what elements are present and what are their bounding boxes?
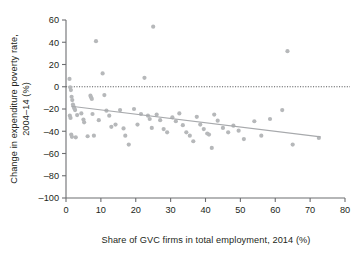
scatter-point <box>191 139 195 143</box>
scatter-point <box>237 129 241 133</box>
y-tick-label: 60 <box>49 15 59 25</box>
scatter-point <box>97 118 101 122</box>
y-tick-label: –40 <box>44 127 59 137</box>
scatter-point <box>123 134 127 138</box>
x-tick-label: 20 <box>131 205 141 215</box>
y-axis-title-line2: 2004–14 (%) <box>21 82 31 136</box>
scatter-point <box>188 134 192 138</box>
scatter-point <box>184 130 188 134</box>
scatter-point <box>68 116 72 120</box>
y-tick-label: –20 <box>44 104 59 114</box>
scatter-point <box>162 127 166 131</box>
scatter-point <box>198 122 202 126</box>
scatter-point <box>86 134 90 138</box>
x-tick-label: 0 <box>63 205 68 215</box>
scatter-point <box>132 107 136 111</box>
x-tick-label: 40 <box>200 205 210 215</box>
y-tick-label: 0 <box>54 82 59 92</box>
scatter-point <box>221 126 225 130</box>
scatter-point <box>252 119 256 123</box>
y-axis-title-line1: Change in expenditure poverty rate, <box>9 34 19 184</box>
x-tick-label: 60 <box>270 205 280 215</box>
scatter-chart-figure: –100–80–60–40–200204060 0102030405060708… <box>0 0 364 254</box>
scatter-point <box>70 135 74 139</box>
scatter-point <box>181 123 185 127</box>
scatter-point <box>69 88 73 92</box>
scatter-point <box>142 76 146 80</box>
scatter-point <box>210 146 214 150</box>
x-axis-title: Share of GVC firms in total employment, … <box>101 235 310 245</box>
scatter-point <box>102 93 106 97</box>
scatter-point <box>135 122 139 126</box>
scatter-point <box>101 71 105 75</box>
scatter-point <box>127 143 131 147</box>
x-tick-label: 50 <box>235 205 245 215</box>
x-tick-label: 80 <box>340 205 350 215</box>
y-tick-label: 20 <box>49 60 59 70</box>
x-tick-label: 10 <box>96 205 106 215</box>
scatter-point <box>158 118 162 122</box>
scatter-point <box>268 117 272 121</box>
scatter-point <box>90 97 94 101</box>
scatter-point <box>285 49 289 53</box>
y-tick-label: –60 <box>44 149 59 159</box>
scatter-point <box>207 132 211 136</box>
scatter-point <box>151 25 155 29</box>
scatter-point <box>92 134 96 138</box>
scatter-point <box>75 113 79 117</box>
scatter-point <box>291 143 295 147</box>
x-tick-label: 30 <box>166 205 176 215</box>
scatter-point <box>259 134 263 138</box>
scatter-point <box>177 111 181 115</box>
scatter-point <box>107 114 111 118</box>
scatter-point <box>226 130 230 134</box>
scatter-point <box>280 108 284 112</box>
scatter-point <box>90 112 94 116</box>
x-tick-label: 70 <box>305 205 315 215</box>
scatter-point <box>148 117 152 121</box>
scatter-point <box>150 126 154 130</box>
scatter-point <box>74 135 78 139</box>
scatter-point <box>113 122 117 126</box>
scatter-point <box>242 137 246 141</box>
scatter-point <box>82 120 86 124</box>
scatter-point <box>94 39 98 43</box>
y-tick-label: –100 <box>39 193 59 203</box>
y-tick-label: 40 <box>49 38 59 48</box>
scatter-point <box>195 115 199 119</box>
scatter-point <box>79 111 83 115</box>
y-tick-label: –80 <box>44 171 59 181</box>
scatter-point <box>70 98 74 102</box>
scatter-point <box>73 108 77 112</box>
scatter-point <box>202 127 206 131</box>
scatter-point <box>67 77 71 81</box>
scatter-point <box>165 130 169 134</box>
scatter-point <box>212 112 216 116</box>
scatter-point <box>121 126 125 130</box>
scatter-point <box>216 119 220 123</box>
scatter-point <box>109 125 113 129</box>
